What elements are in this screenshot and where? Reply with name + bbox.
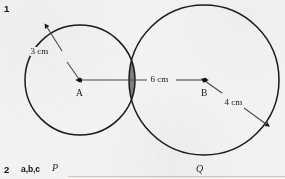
figure-page: 1 3 cm A 6 cm B 4 cm 2 a,b,c P Q (0, 0, 285, 179)
sub-parts-label: a,b,c (21, 165, 40, 174)
radius-arrow-right-lower (244, 108, 266, 124)
question-number-1: 1 (4, 4, 9, 14)
radius-arrow-left-lower (67, 62, 79, 79)
center-label-b: B (201, 89, 207, 99)
radius-arrow-right-upper (205, 81, 222, 93)
geometry-figure (0, 0, 285, 179)
distance-label: 6 cm (150, 75, 169, 84)
set-label-p: P (52, 163, 58, 173)
center-point-b (203, 78, 207, 82)
radius-label-left: 3 cm (30, 47, 49, 56)
center-point-a (78, 78, 82, 82)
radius-label-right: 4 cm (224, 98, 243, 107)
set-label-q: Q (196, 164, 203, 174)
center-label-a: A (76, 89, 83, 99)
question-number-2: 2 (4, 165, 9, 175)
page-rule-right (68, 176, 285, 177)
